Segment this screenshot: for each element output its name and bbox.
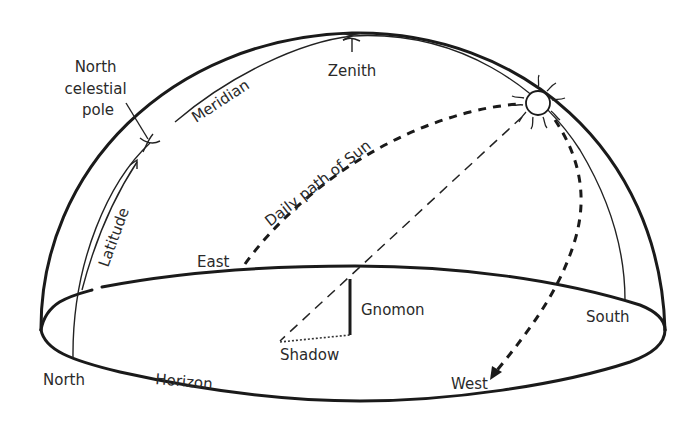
celestial-sphere-diagram: North celestial pole Meridian Zenith Dai… [0, 0, 696, 427]
shadow-label: Shadow [280, 346, 339, 364]
gnomon-label: Gnomon [361, 301, 425, 319]
east-label: East [197, 253, 229, 271]
north-celestial-pole-label: North celestial pole [65, 58, 132, 119]
zenith-label: Zenith [328, 62, 377, 80]
daily-path-label: Daily path of Sun [261, 136, 374, 230]
south-label: South [586, 308, 630, 326]
horizon-ellipse [41, 266, 665, 401]
daily-path-of-sun [245, 104, 520, 264]
latitude-label: Latitude [95, 205, 133, 269]
west-label: West [451, 375, 488, 393]
meridian-arc-upper [175, 36, 625, 300]
north-label: North [43, 371, 85, 389]
horizon-label: Horizon [155, 370, 214, 393]
west-arrow [494, 120, 581, 374]
shadow [280, 335, 350, 342]
meridian-label: Meridian [188, 76, 252, 126]
